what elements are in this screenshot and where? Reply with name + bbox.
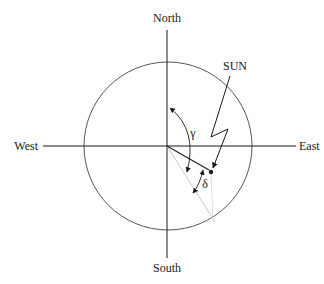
label-east: East [299, 139, 320, 153]
sun-ray [211, 76, 230, 168]
label-west: West [14, 139, 38, 153]
label-gamma: γ [189, 126, 196, 140]
vertical-projection-line [211, 172, 213, 222]
solar-angle-diagram: North South West East SUN γ δ [0, 0, 324, 284]
label-north: North [153, 11, 181, 25]
panel-point [209, 170, 213, 174]
gamma-arc [170, 108, 190, 172]
label-delta: δ [202, 177, 208, 191]
label-sun: SUN [223, 59, 247, 73]
label-south: South [153, 261, 181, 275]
